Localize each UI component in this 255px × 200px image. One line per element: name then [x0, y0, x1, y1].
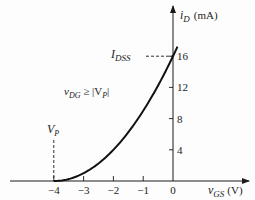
y-tick-label: 12: [177, 81, 188, 93]
x-tick-label: −4: [48, 184, 60, 196]
y-tick-label: 8: [177, 113, 183, 125]
x-tick-label: −3: [78, 184, 90, 196]
idss-label: IDSS: [110, 47, 131, 63]
x-tick-label: −1: [137, 184, 149, 196]
condition-label: vDG ≥ |VP|: [64, 85, 109, 100]
y-tick-label: 4: [177, 144, 183, 156]
y-tick-label: 16: [177, 50, 189, 62]
plot-canvas: −4−3−2−10 481216 iD(mA) vGS(V) IDSS VP v…: [0, 0, 255, 200]
x-tick-label: 0: [170, 184, 176, 196]
y-axis-label: iD(mA): [180, 8, 218, 24]
y-ticks: 481216: [169, 50, 189, 156]
transfer-curve: [54, 47, 178, 181]
x-tick-label: −2: [108, 184, 120, 196]
vp-label: VP: [47, 122, 59, 138]
jfet-transfer-characteristic-diagram: −4−3−2−10 481216 iD(mA) vGS(V) IDSS VP v…: [0, 0, 255, 200]
x-axis-label: vGS(V): [208, 183, 243, 199]
